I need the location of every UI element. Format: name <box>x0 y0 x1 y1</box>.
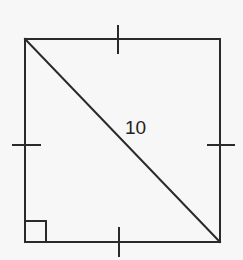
right-angle-marker <box>25 221 46 242</box>
square-diagram <box>0 0 243 260</box>
diagonal-line <box>25 39 220 242</box>
diagonal-length-label: 10 <box>125 118 146 137</box>
